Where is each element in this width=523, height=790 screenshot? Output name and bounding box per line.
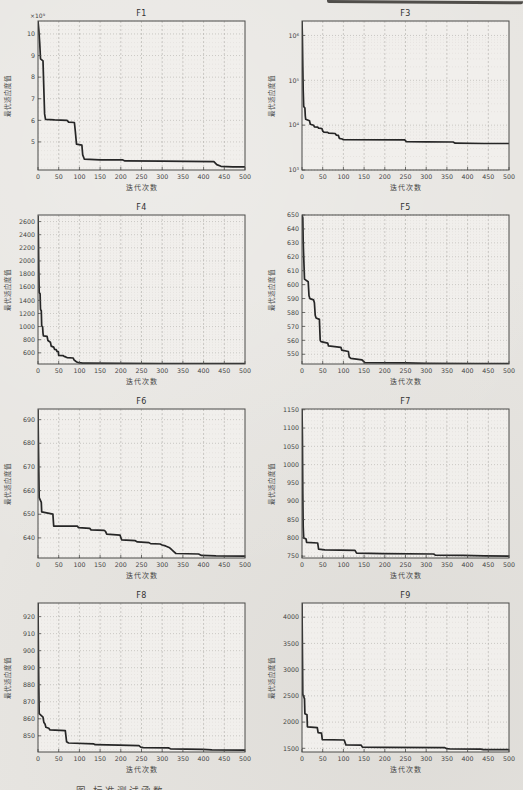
svg-text:100: 100	[73, 367, 85, 374]
svg-text:870: 870	[23, 698, 35, 705]
svg-text:0: 0	[36, 367, 40, 374]
svg-text:2200: 2200	[19, 244, 35, 251]
svg-text:150: 150	[358, 173, 370, 180]
svg-text:800: 800	[23, 336, 35, 343]
x-tick-labels: 050100150200250300350400450500	[300, 561, 515, 568]
svg-text:3000: 3000	[283, 666, 299, 673]
svg-text:500: 500	[239, 173, 251, 180]
svg-text:350: 350	[177, 561, 189, 568]
svg-text:0: 0	[300, 755, 304, 762]
svg-text:10: 10	[27, 30, 35, 37]
svg-text:450: 450	[482, 561, 494, 568]
y-axis-label: 最优适应度值	[3, 269, 12, 311]
svg-text:600: 600	[23, 349, 35, 356]
svg-text:10⁴: 10⁴	[288, 121, 299, 128]
y-tick-labels: 640650660670680690	[23, 416, 35, 541]
svg-text:350: 350	[177, 173, 189, 180]
svg-text:150: 150	[358, 561, 370, 568]
svg-text:450: 450	[482, 173, 494, 180]
svg-text:400: 400	[462, 173, 474, 180]
svg-text:250: 250	[399, 755, 411, 762]
svg-text:860: 860	[23, 715, 35, 722]
y-tick-labels: 150020002500300035004000	[283, 613, 299, 751]
svg-text:10⁶: 10⁶	[288, 32, 299, 39]
svg-text:350: 350	[177, 755, 189, 762]
svg-text:400: 400	[462, 755, 474, 762]
svg-text:880: 880	[23, 681, 35, 688]
x-tick-labels: 050100150200250300350400450500	[36, 173, 251, 180]
svg-text:400: 400	[198, 367, 210, 374]
scan-edge-artifact	[327, 0, 523, 4]
svg-text:3500: 3500	[283, 640, 299, 647]
plot-area	[38, 21, 245, 170]
x-tick-labels: 050100150200250300350400450500	[300, 367, 515, 374]
x-axis-label: 迭代次数	[126, 377, 158, 386]
svg-text:400: 400	[198, 173, 210, 180]
plot-area	[302, 215, 509, 364]
svg-text:100: 100	[73, 755, 85, 762]
svg-text:1100: 1100	[283, 424, 299, 431]
x-axis-label: 迭代次数	[390, 377, 422, 386]
svg-text:350: 350	[441, 173, 453, 180]
svg-text:910: 910	[23, 630, 35, 637]
y-axis-label: 最优适应度值	[267, 269, 276, 311]
svg-text:450: 450	[482, 367, 494, 374]
svg-text:2000: 2000	[19, 257, 35, 264]
svg-text:1400: 1400	[19, 297, 35, 304]
svg-text:5: 5	[31, 138, 35, 145]
svg-text:200: 200	[379, 755, 391, 762]
svg-text:890: 890	[23, 664, 35, 671]
svg-text:1000: 1000	[19, 323, 35, 330]
svg-text:300: 300	[420, 561, 432, 568]
svg-text:100: 100	[73, 173, 85, 180]
chart-title: F8	[136, 591, 147, 600]
svg-text:600: 600	[287, 281, 299, 288]
x-tick-labels: 050100150200250300350400450500	[300, 755, 515, 762]
svg-text:640: 640	[287, 225, 299, 232]
svg-text:590: 590	[287, 295, 299, 302]
svg-text:350: 350	[177, 367, 189, 374]
svg-text:200: 200	[115, 561, 127, 568]
svg-text:200: 200	[115, 755, 127, 762]
chart-F3: 05010015020025030035040045050010³10⁴10⁵1…	[266, 6, 520, 200]
svg-text:100: 100	[337, 173, 349, 180]
svg-text:350: 350	[441, 755, 453, 762]
x-axis-label: 迭代次数	[126, 765, 158, 774]
svg-text:50: 50	[55, 561, 63, 568]
y-tick-labels: 10³10⁴10⁵10⁶	[288, 32, 299, 174]
svg-text:550: 550	[287, 350, 299, 357]
svg-text:1050: 1050	[283, 443, 299, 450]
svg-text:500: 500	[503, 367, 515, 374]
svg-text:500: 500	[239, 755, 251, 762]
y-axis-label: 最优适应度值	[3, 463, 12, 505]
svg-text:1000: 1000	[283, 461, 299, 468]
x-tick-labels: 050100150200250300350400450500	[36, 561, 251, 568]
svg-text:560: 560	[287, 337, 299, 344]
svg-text:950: 950	[287, 479, 299, 486]
svg-text:400: 400	[198, 561, 210, 568]
svg-text:250: 250	[399, 173, 411, 180]
svg-text:500: 500	[239, 367, 251, 374]
svg-text:150: 150	[94, 367, 106, 374]
svg-text:150: 150	[358, 367, 370, 374]
svg-text:750: 750	[287, 552, 299, 559]
svg-text:500: 500	[503, 173, 515, 180]
y-axis-label: 最优适应度值	[267, 657, 276, 699]
svg-text:580: 580	[287, 309, 299, 316]
svg-text:250: 250	[135, 173, 147, 180]
svg-text:100: 100	[337, 561, 349, 568]
svg-text:150: 150	[358, 755, 370, 762]
svg-text:0: 0	[300, 561, 304, 568]
figure-caption: 图 标准测试函数	[76, 783, 296, 790]
plot-area	[38, 409, 245, 558]
svg-text:640: 640	[23, 534, 35, 541]
svg-text:920: 920	[23, 613, 35, 620]
svg-text:2600: 2600	[19, 218, 35, 225]
svg-text:50: 50	[319, 561, 327, 568]
y-axis-label: 最优适应度值	[3, 657, 12, 699]
svg-text:400: 400	[462, 561, 474, 568]
svg-text:200: 200	[379, 173, 391, 180]
svg-text:2000: 2000	[283, 718, 299, 725]
svg-text:680: 680	[23, 439, 35, 446]
svg-text:150: 150	[94, 173, 106, 180]
